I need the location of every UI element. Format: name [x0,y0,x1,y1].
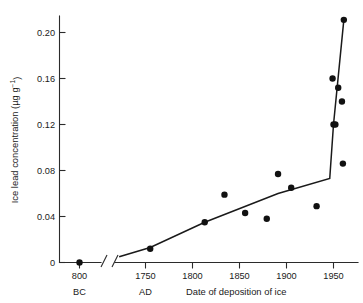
x-tick-label-1750: 1750 [135,271,155,281]
axis-break-right-slash [112,255,118,267]
y-axis-title-main: Ice lead concentration (µg g [9,87,20,203]
y-tick-label-0: 0 [50,258,55,268]
chart-svg: 0.20 0.16 0.12 0.08 0.04 0 Ice lead conc… [0,0,363,303]
data-point [288,185,294,191]
axis-break-left-slash [101,255,107,267]
x-tick-label-1850: 1850 [229,271,249,281]
ice-lead-concentration-chart: 0.20 0.16 0.12 0.08 0.04 0 Ice lead conc… [0,0,363,303]
x-tick-label-1900: 1900 [276,271,296,281]
y-tick-label-5: 0.20 [37,28,55,38]
y-axis-title-tail: ) [11,77,22,80]
y-tick-label-1: 0.04 [37,212,55,222]
x-axis-right-segment: 1750 1800 1850 1900 1950 AD Date of depo… [115,263,358,298]
era-label-bc: BC [73,287,86,297]
y-axis: 0.20 0.16 0.12 0.08 0.04 0 [37,16,65,268]
x-axis-left-segment: 800 BC [60,263,102,298]
data-point [275,171,281,177]
data-point [202,219,208,225]
plot-layer [76,17,347,266]
data-point [242,210,248,216]
x-tick-label-1950: 1950 [323,271,343,281]
data-point [332,121,338,127]
data-point [76,259,82,265]
y-axis-title-group: Ice lead concentration (µg g−1) [9,77,23,204]
data-point [329,75,335,81]
y-tick-label-2: 0.08 [37,166,55,176]
data-point [341,17,347,23]
data-point [147,246,153,252]
data-point [340,160,346,166]
y-tick-label-3: 0.12 [37,120,55,130]
y-tick-label-4: 0.16 [37,74,55,84]
data-point [313,203,319,209]
y-axis-title: Ice lead concentration (µg g−1) [9,77,23,204]
data-point [264,216,270,222]
trend-line [119,20,344,257]
x-tick-label-800: 800 [72,271,87,281]
data-point [221,191,227,197]
data-point [335,85,341,91]
era-label-ad: AD [139,287,152,297]
x-axis-title: Date of deposition of ice [186,286,287,297]
axis-break-marks [101,255,118,267]
data-point [339,98,345,104]
x-tick-label-1800: 1800 [182,271,202,281]
